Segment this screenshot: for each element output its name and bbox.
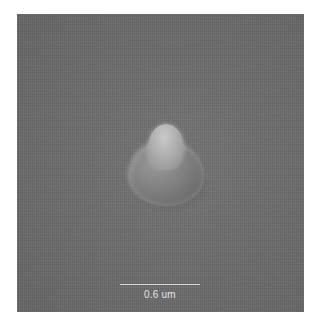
- sem-micrograph: [17, 14, 304, 312]
- scale-bar-label: 0.6 um: [120, 289, 200, 300]
- feature-tip: [148, 124, 184, 168]
- scale-bar: [120, 284, 200, 285]
